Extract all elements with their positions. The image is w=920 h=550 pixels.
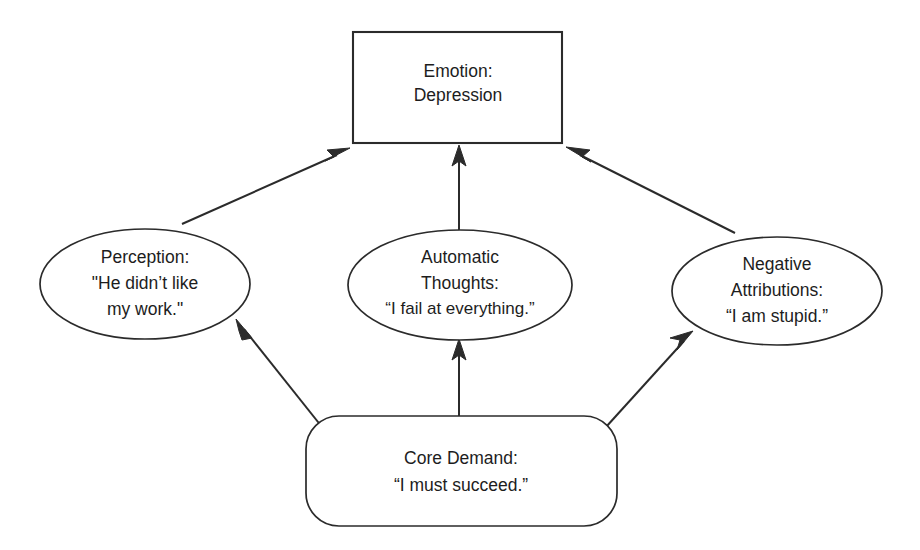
node-core-demand-rect (306, 416, 617, 526)
node-negative-attributions[interactable]: Negative Attributions: “I am stupid.” (672, 237, 882, 345)
node-automatic-thoughts-line-1: Automatic (421, 247, 499, 267)
edge-negative-attributions-to-emotion-arrowhead (566, 147, 591, 162)
node-emotion[interactable]: Emotion: Depression (353, 32, 562, 143)
edge-negative-attributions-to-emotion (566, 147, 735, 233)
cognitive-model-diagram: Emotion: Depression Perception: "He didn… (0, 0, 920, 550)
node-automatic-thoughts-line-3: “I fail at everything.” (385, 299, 535, 318)
node-core-demand[interactable]: Core Demand: “I must succeed.” (306, 416, 617, 526)
node-core-demand-line-1: Core Demand: (404, 448, 518, 468)
edge-core-to-perception-line (244, 329, 322, 427)
edge-core-to-negative-attributions (606, 331, 693, 427)
node-perception-line-3: my work." (107, 299, 183, 319)
node-emotion-line-1: Emotion: (423, 61, 492, 81)
edge-automatic-thoughts-to-emotion (452, 145, 466, 231)
node-negative-attributions-line-1: Negative (742, 254, 811, 274)
edge-core-to-negative-attributions-arrowhead (670, 331, 693, 350)
edge-negative-attributions-to-emotion-line (580, 155, 735, 233)
node-automatic-thoughts-line-2: Thoughts: (421, 273, 499, 293)
node-perception-line-1: Perception: (101, 247, 190, 267)
edge-core-to-negative-attributions-line (606, 341, 684, 427)
node-perception-line-2: "He didn’t like (92, 273, 198, 293)
edge-perception-to-emotion (182, 148, 350, 224)
edge-core-to-automatic-thoughts (452, 339, 466, 416)
edge-perception-to-emotion-line (182, 155, 337, 224)
node-negative-attributions-line-3: “I am stupid.” (726, 306, 828, 326)
edge-core-to-perception (236, 319, 322, 427)
node-perception[interactable]: Perception: "He didn’t like my work." (40, 229, 250, 339)
diagram-canvas: Emotion: Depression Perception: "He didn… (0, 0, 920, 550)
edge-perception-to-emotion-arrowhead (325, 148, 350, 161)
node-automatic-thoughts[interactable]: Automatic Thoughts: “I fail at everythin… (348, 230, 572, 340)
node-core-demand-line-2: “I must succeed.” (394, 475, 528, 495)
node-negative-attributions-line-2: Attributions: (731, 280, 823, 300)
node-emotion-line-2: Depression (414, 85, 503, 105)
edge-core-to-perception-arrowhead (236, 319, 252, 340)
